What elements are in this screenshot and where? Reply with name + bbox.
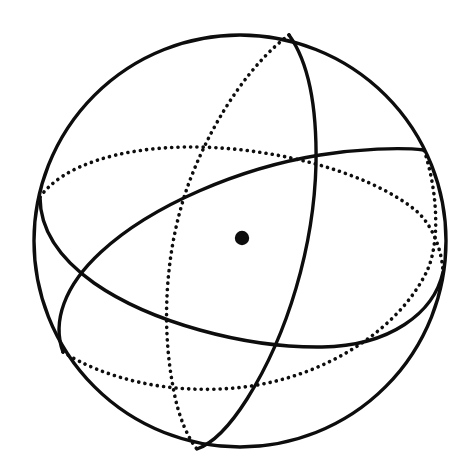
sphere-diagram: Sphere with three great circles Line dra…	[0, 0, 472, 475]
figure-root: Sphere with three great circles Line dra…	[0, 0, 472, 475]
center-dot	[235, 231, 249, 245]
